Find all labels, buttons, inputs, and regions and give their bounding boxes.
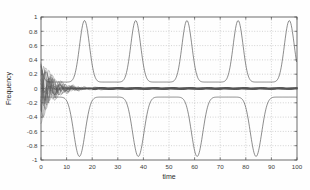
y-tick-label: 0.8	[29, 28, 38, 35]
x-tick-label: 30	[114, 163, 121, 170]
x-tick-label: 90	[268, 163, 275, 170]
x-tick-label: 20	[89, 163, 96, 170]
y-tick-label: -0.8	[27, 142, 38, 149]
y-tick-label: -0.4	[27, 113, 38, 120]
y-axis-title: Frequency	[5, 71, 13, 105]
x-tick-label: 50	[166, 163, 173, 170]
y-tick-label: 0.6	[29, 42, 38, 49]
x-tick-label: 0	[39, 163, 43, 170]
y-tick-label: -0.6	[27, 128, 38, 135]
y-tick-label: 0	[34, 85, 38, 92]
x-tick-label: 80	[242, 163, 249, 170]
y-tick-label: 0.2	[29, 70, 38, 77]
y-tick-label: -0.2	[27, 99, 38, 106]
y-tick-label: -1	[32, 156, 38, 163]
frequency-vs-time-chart: 0102030405060708090100 -1-0.8-0.6-0.4-0.…	[0, 0, 310, 190]
x-tick-label: 40	[140, 163, 147, 170]
x-tick-label: 70	[217, 163, 224, 170]
x-tick-label: 10	[63, 163, 70, 170]
x-axis-title: time	[162, 173, 175, 180]
y-tick-label: 0.4	[29, 56, 38, 63]
y-tick-label: 1	[34, 13, 38, 20]
x-tick-label: 60	[191, 163, 198, 170]
x-tick-label: 100	[292, 163, 303, 170]
figure-container: 0102030405060708090100 -1-0.8-0.6-0.4-0.…	[0, 0, 310, 190]
